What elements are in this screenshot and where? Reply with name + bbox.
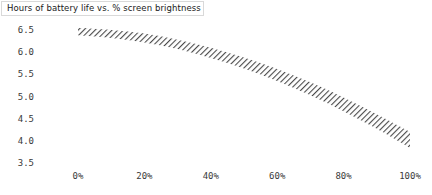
x-tick-label: 20% <box>114 172 174 181</box>
y-tick-label: 4.0 <box>0 136 34 145</box>
x-tick-label: 80% <box>314 172 374 181</box>
y-tick-label: 6.0 <box>0 48 34 57</box>
y-tick-label: 5.5 <box>0 70 34 79</box>
plot-area: 6.56.05.55.04.54.03.5 0%20%40%60%80%100% <box>0 0 432 195</box>
x-tick-label: 0% <box>48 172 108 181</box>
y-tick-label: 3.5 <box>0 159 34 168</box>
battery-life-chart: Hours of battery life vs. % screen brigh… <box>0 0 432 195</box>
uncertainty-band <box>78 28 410 148</box>
y-tick-label: 6.5 <box>0 26 34 35</box>
y-tick-label: 5.0 <box>0 92 34 101</box>
x-tick-label: 40% <box>181 172 241 181</box>
x-tick-label: 60% <box>247 172 307 181</box>
x-tick-label: 100% <box>380 172 432 181</box>
y-tick-label: 4.5 <box>0 114 34 123</box>
plot-svg <box>0 0 432 195</box>
